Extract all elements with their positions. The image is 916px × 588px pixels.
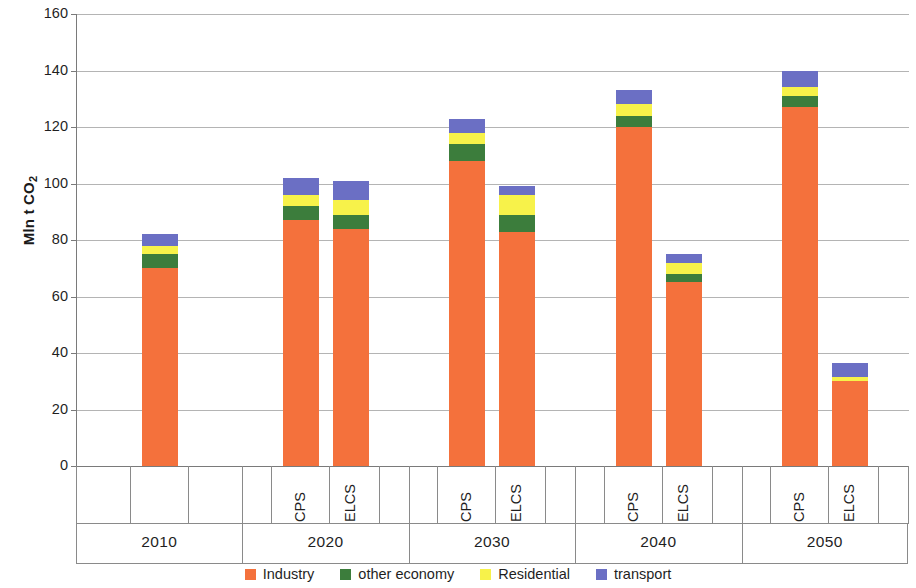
bar-2010[interactable]	[142, 234, 178, 466]
legend-swatch-icon	[596, 569, 607, 580]
bar-segment-other_economy	[782, 96, 818, 107]
bar-segment-transport	[616, 90, 652, 104]
x-axis-sublabel-text: CPS	[292, 492, 308, 522]
x-axis-separator	[130, 466, 131, 524]
bar-segment-transport	[782, 71, 818, 88]
y-tick-mark-20	[71, 410, 77, 411]
bar-2030-cps[interactable]	[449, 119, 485, 466]
legend-label: Residential	[498, 566, 570, 582]
y-tick-mark-160	[71, 14, 77, 15]
y-tick-mark-100	[71, 184, 77, 185]
bar-segment-other_economy	[666, 274, 702, 282]
x-axis-separator	[742, 466, 743, 524]
x-axis-separator	[908, 466, 909, 524]
x-axis-separator	[545, 466, 546, 524]
x-axis-separator	[662, 466, 663, 524]
bar-segment-residential	[499, 195, 535, 215]
y-tick-mark-140	[71, 71, 77, 72]
bar-segment-other_economy	[499, 215, 535, 232]
bar-2040-elcs[interactable]	[666, 254, 702, 466]
bar-segment-industry	[616, 127, 652, 466]
bar-segment-other_economy	[142, 254, 178, 268]
bar-segment-transport	[499, 186, 535, 194]
bar-segment-industry	[142, 268, 178, 466]
x-axis-sublabel-2040-elcs: ELCS	[672, 470, 694, 522]
gridline-160	[77, 14, 909, 15]
bar-segment-residential	[616, 104, 652, 115]
y-tick-label-0: 0	[0, 457, 68, 473]
y-tick-label-40: 40	[0, 344, 68, 360]
x-axis-sublabel-text: ELCS	[841, 484, 857, 522]
bar-segment-industry	[499, 232, 535, 466]
x-axis-sublabel-2020-elcs: ELCS	[339, 470, 361, 522]
legend-label: Industry	[263, 566, 315, 582]
x-axis-sublabel-2040-cps: CPS	[622, 470, 644, 522]
stacked-bar-chart: Mln t CO2 020406080100120140160 CPSELCSC…	[0, 0, 916, 588]
bar-segment-transport	[666, 254, 702, 262]
bar-2030-elcs[interactable]	[499, 186, 535, 466]
x-axis-sublabel-text: ELCS	[675, 484, 691, 522]
y-tick-label-160: 160	[0, 5, 68, 21]
x-axis-group-label-2020: 2020	[242, 533, 408, 551]
x-axis-separator	[828, 466, 829, 524]
bar-segment-residential	[333, 200, 369, 214]
x-axis-separator	[242, 466, 243, 524]
x-axis-separator	[437, 466, 438, 524]
bar-segment-residential	[142, 246, 178, 254]
x-axis-sublabel-text: CPS	[458, 492, 474, 522]
legend-item-other-economy[interactable]: other economy	[340, 566, 454, 582]
bar-segment-transport	[832, 363, 868, 377]
bar-segment-industry	[283, 220, 319, 466]
legend-swatch-icon	[340, 569, 351, 580]
bar-2040-cps[interactable]	[616, 90, 652, 466]
x-axis-sublabel-2020-cps: CPS	[289, 470, 311, 522]
y-tick-label-140: 140	[0, 62, 68, 78]
bar-segment-other_economy	[283, 206, 319, 220]
bar-segment-transport	[142, 234, 178, 245]
bar-segment-transport	[333, 181, 369, 201]
x-axis-separator	[575, 466, 576, 524]
bar-segment-industry	[449, 161, 485, 466]
x-axis-separator	[188, 466, 189, 524]
x-axis-separator	[770, 466, 771, 524]
bar-segment-residential	[449, 133, 485, 144]
bar-segment-other_economy	[449, 144, 485, 161]
legend-item-residential[interactable]: Residential	[480, 566, 570, 582]
bar-segment-other_economy	[616, 116, 652, 127]
x-axis-category-band: 20102020203020402050	[76, 524, 908, 564]
bar-segment-industry	[666, 282, 702, 466]
bar-segment-residential	[782, 87, 818, 95]
y-tick-label-80: 80	[0, 231, 68, 247]
y-tick-mark-120	[71, 127, 77, 128]
bar-2020-cps[interactable]	[283, 178, 319, 466]
x-axis-subcategory-band: CPSELCSCPSELCSCPSELCSCPSELCS	[76, 466, 908, 524]
bar-2050-elcs[interactable]	[832, 363, 868, 466]
bar-segment-transport	[283, 178, 319, 195]
x-axis-sublabel-text: CPS	[791, 492, 807, 522]
x-axis-sublabel-text: ELCS	[508, 484, 524, 522]
legend-swatch-icon	[245, 569, 256, 580]
bar-2020-elcs[interactable]	[333, 181, 369, 466]
legend-item-industry[interactable]: Industry	[245, 566, 315, 582]
y-tick-label-60: 60	[0, 288, 68, 304]
x-axis-group-label-2040: 2040	[575, 533, 741, 551]
x-axis-sublabel-2030-cps: CPS	[455, 470, 477, 522]
x-axis-separator	[604, 466, 605, 524]
y-axis-title: Mln t CO2	[20, 131, 37, 291]
x-axis-sublabel-text: CPS	[625, 492, 641, 522]
y-tick-mark-80	[71, 240, 77, 241]
bar-segment-industry	[832, 381, 868, 466]
bar-segment-residential	[666, 263, 702, 274]
legend-label: transport	[614, 566, 671, 582]
x-axis-sublabel-2050-cps: CPS	[788, 470, 810, 522]
legend-item-transport[interactable]: transport	[596, 566, 671, 582]
x-axis-group-label-2050: 2050	[742, 533, 908, 551]
x-axis-sublabel-text: ELCS	[342, 484, 358, 522]
x-axis-sublabel-2030-elcs: ELCS	[505, 470, 527, 522]
bar-2050-cps[interactable]	[782, 71, 818, 466]
x-axis-separator	[379, 466, 380, 524]
y-tick-label-100: 100	[0, 175, 68, 191]
chart-legend: Industryother economyResidentialtranspor…	[0, 566, 916, 582]
bar-segment-residential	[283, 195, 319, 206]
bar-segment-industry	[333, 229, 369, 466]
